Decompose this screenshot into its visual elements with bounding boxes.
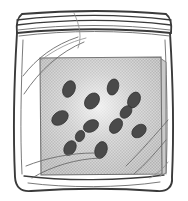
seal-band — [17, 11, 172, 33]
bag-left-inner-edge — [21, 40, 23, 174]
bag-bottom-inner-line-2 — [28, 182, 160, 187]
illustration-canvas: Hand-drawn line illustration of a clear … — [0, 0, 188, 201]
seal-line — [19, 32, 170, 37]
bag-illustration-svg — [0, 0, 188, 201]
crease-line — [41, 38, 86, 60]
bag-bottom-inner-line — [24, 175, 164, 180]
bag-zip-seal — [17, 11, 172, 48]
